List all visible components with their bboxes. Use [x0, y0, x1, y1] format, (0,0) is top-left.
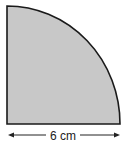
arrow-left-icon	[8, 133, 14, 138]
quarter-circle-diagram: 6 cm	[0, 0, 127, 145]
arrow-right-icon	[114, 133, 120, 138]
radius-label: 6 cm	[50, 129, 76, 143]
quarter-circle-shape	[7, 6, 120, 124]
